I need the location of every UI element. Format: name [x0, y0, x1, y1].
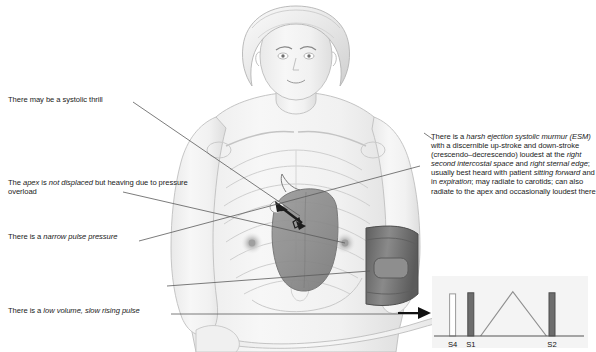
heart-sound-bar-S2 [549, 293, 555, 336]
heart-sound-label-S4: S4 [448, 340, 457, 349]
heart-sound-bar-S4 [450, 294, 456, 336]
heart-sound-bar-S1 [468, 293, 474, 336]
heart-sound-label-S2: S2 [547, 340, 556, 349]
heart-sound-label-S1: S1 [466, 340, 475, 349]
